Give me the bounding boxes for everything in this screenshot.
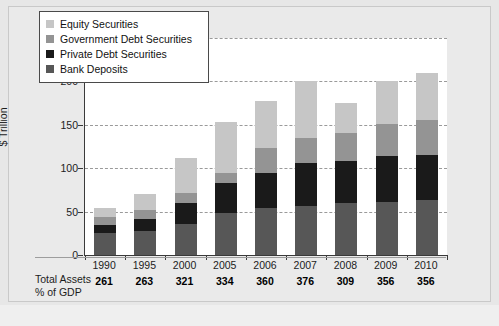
footer-value: 321 [176,275,194,287]
bar-segment [335,103,357,133]
bar-segment [215,173,237,183]
chart-figure: $ Trillion 250200150100500 Equity Securi… [0,0,499,326]
footer-caption: Total Assets % of GDP [35,273,91,299]
y-axis-tick-mark [78,255,83,256]
bar-group [215,122,237,255]
bar-segment [215,213,237,255]
bar-segment [376,124,398,156]
bar-segment [94,225,116,234]
bar-segment [175,158,197,194]
bar-segment [94,208,116,217]
bar-segment [175,193,197,203]
footer-value: 334 [216,275,234,287]
legend-item[interactable]: Bank Deposits [46,62,202,76]
bar-group [335,103,357,255]
footer-caption-line2: % of GDP [35,286,91,299]
bar-segment [376,156,398,202]
bar-segment [335,161,357,203]
footer-value: 356 [377,275,395,287]
y-axis-tick-mark [78,125,83,126]
bar-segment [416,200,438,255]
y-axis-tick-mark [78,168,83,169]
x-axis-tick-mark [447,255,448,260]
x-axis-tick-labels: 199019952000200520062007200820092010 [84,259,446,273]
legend-item[interactable]: Private Debt Securities [46,47,202,61]
y-axis-title: $ Trillion [0,107,9,146]
bar-segment [295,138,317,163]
chart-legend: Equity SecuritiesGovernment Debt Securit… [39,11,209,83]
bar-segment [255,208,277,255]
bar-group [416,73,438,255]
footer-value: 360 [256,275,274,287]
legend-item-label: Bank Deposits [60,64,128,75]
footer-value: 309 [337,275,355,287]
legend-item[interactable]: Equity Securities [46,17,202,31]
footer-value: 263 [136,275,154,287]
legend-item-label: Private Debt Securities [60,49,167,60]
bar-segment [134,194,156,210]
bar-group [134,194,156,255]
bar-segment [175,203,197,224]
footer-divider [35,257,446,258]
bar-segment [295,206,317,255]
legend-item[interactable]: Government Debt Securities [46,32,202,46]
x-axis-tick-label: 2000 [173,259,196,271]
bar-segment [255,148,277,172]
bar-group [94,208,116,255]
bar-segment [416,120,438,155]
footer-value: 376 [296,275,314,287]
bar-segment [295,81,317,138]
footer-values-row: 261263321334360376309356356 [84,275,446,289]
bar-segment [134,231,156,255]
y-axis-tick-mark [78,212,83,213]
y-axis-tick-label: 150 [60,119,78,131]
y-axis-tick-label: 100 [60,162,78,174]
x-axis-tick-label: 2005 [213,259,236,271]
footer-value: 356 [417,275,435,287]
bar-segment [94,217,116,225]
x-axis-tick-label: 1995 [133,259,156,271]
x-axis-tick-label: 2007 [294,259,317,271]
legend-item-label: Government Debt Securities [60,34,192,45]
legend-swatch-icon [46,20,54,28]
bar-segment [94,233,116,255]
bar-segment [335,133,357,162]
bar-segment [255,173,277,209]
bar-segment [134,210,156,220]
bar-segment [416,155,438,200]
chart-panel: $ Trillion 250200150100500 Equity Securi… [8,6,491,302]
bar-group [175,158,197,255]
x-axis-tick-label: 2009 [374,259,397,271]
legend-swatch-icon [46,50,54,58]
bar-segment [134,219,156,230]
bar-segment [215,183,237,213]
footer-caption-line1: Total Assets [35,273,91,286]
bar-group [255,101,277,256]
x-axis-tick-label: 1990 [92,259,115,271]
x-axis-tick-label: 2008 [334,259,357,271]
bar-segment [175,224,197,255]
bar-segment [335,203,357,255]
page-bottom-strip [0,305,499,326]
bar-segment [295,163,317,206]
bar-segment [376,81,398,124]
bar-segment [376,202,398,255]
legend-swatch-icon [46,35,54,43]
y-axis-tick-label: 50 [66,206,78,218]
bar-segment [416,73,438,121]
bar-group [295,81,317,255]
footer-value: 261 [95,275,113,287]
bar-segment [215,122,237,172]
bar-segment [255,101,277,149]
legend-item-label: Equity Securities [60,19,138,30]
legend-swatch-icon [46,65,54,73]
bar-group [376,81,398,255]
x-axis-tick-label: 2010 [414,259,437,271]
x-axis-tick-label: 2006 [253,259,276,271]
